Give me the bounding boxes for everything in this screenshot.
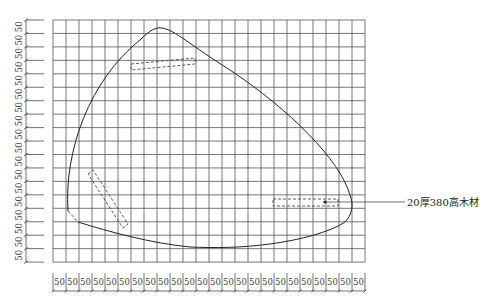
- left-dim-label: 50: [14, 75, 24, 86]
- bottom-dim-label: 50: [197, 277, 208, 287]
- bottom-dim-label: 50: [275, 277, 286, 287]
- left-dim-label: 50: [14, 250, 24, 261]
- bottom-dim-label: 50: [327, 277, 338, 287]
- bench-outline-dashed-gap: [68, 211, 78, 222]
- left-dim-label: 50: [14, 115, 24, 126]
- bottom-dim-label: 50: [67, 277, 78, 287]
- bottom-dim-label: 50: [158, 277, 169, 287]
- bottom-dim-label: 50: [314, 277, 325, 287]
- bottom-dim-label: 50: [223, 277, 234, 287]
- left-dim-label: 50: [14, 35, 24, 46]
- bottom-dim-label: 50: [106, 277, 117, 287]
- left-dim-label: 50: [14, 142, 24, 153]
- left-dim-label: 50: [14, 21, 24, 32]
- left-dim-label: 50: [14, 89, 24, 100]
- bottom-dim-label: 50: [210, 277, 221, 287]
- left-dim-label: 50: [14, 237, 24, 248]
- left-dim-label: 50: [14, 102, 24, 113]
- timber-board-right: [273, 199, 338, 206]
- bottom-dim-label: 50: [132, 277, 143, 287]
- bottom-dim-label: 50: [145, 277, 156, 287]
- bench-outline-curve: [68, 28, 352, 248]
- left-dim-label: 50: [14, 169, 24, 180]
- bottom-dim-label: 50: [301, 277, 312, 287]
- drawing-canvas: 505050505050505050505050505050505050 505…: [0, 0, 489, 304]
- bottom-dim-label: 50: [249, 277, 260, 287]
- left-dim-label: 50: [14, 156, 24, 167]
- left-dim-label: 50: [14, 210, 24, 221]
- left-dimension-column: 505050505050505050505050505050505050: [14, 19, 44, 264]
- bottom-dim-label: 50: [54, 277, 65, 287]
- left-dim-label: 50: [14, 48, 24, 59]
- bottom-dim-label: 50: [80, 277, 91, 287]
- bottom-dim-label: 50: [262, 277, 273, 287]
- bottom-dim-label: 50: [353, 277, 364, 287]
- left-dim-label: 50: [14, 223, 24, 234]
- bottom-dim-label: 50: [340, 277, 351, 287]
- material-label: 20厚380高木材: [407, 196, 479, 208]
- timber-board-top: [131, 58, 195, 70]
- timber-board-left: [88, 170, 128, 228]
- bottom-dim-label: 50: [236, 277, 247, 287]
- left-dim-label: 50: [14, 129, 24, 140]
- bottom-dim-label: 50: [184, 277, 195, 287]
- bottom-dim-label: 50: [93, 277, 104, 287]
- bottom-dimension-row: 5050505050505050505050505050505050505050…: [52, 273, 367, 293]
- bottom-dim-label: 50: [171, 277, 182, 287]
- bottom-dim-label: 50: [288, 277, 299, 287]
- left-dim-label: 50: [14, 62, 24, 73]
- left-dim-label: 50: [14, 196, 24, 207]
- left-dim-label: 50: [14, 183, 24, 194]
- bottom-dim-label: 50: [119, 277, 130, 287]
